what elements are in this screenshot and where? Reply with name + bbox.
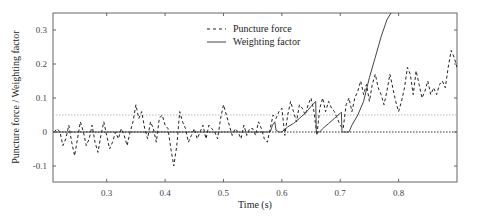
legend: Puncture force Weighting factor xyxy=(207,23,301,47)
y-tick-label: -0.1 xyxy=(33,161,47,171)
y-tick-label: 0.2 xyxy=(36,59,47,69)
y-tick-label: 0.3 xyxy=(36,25,48,35)
x-axis-label: Time (s) xyxy=(238,199,272,211)
chart: 0.30.40.50.60.70.8 -0.100.10.20.3 Time (… xyxy=(0,0,481,223)
y-tick-label: 0 xyxy=(43,127,48,137)
legend-label-puncture-force: Puncture force xyxy=(233,23,292,34)
x-tick-label: 0.3 xyxy=(101,188,113,198)
x-tick-label: 0.7 xyxy=(335,188,347,198)
x-tick-label: 0.6 xyxy=(276,188,288,198)
series-puncture-force xyxy=(54,50,457,166)
y-tick-label: 0.1 xyxy=(36,93,47,103)
y-axis-label: Puncture force / Weighting factor xyxy=(10,30,21,164)
x-tick-label: 0.8 xyxy=(393,188,405,198)
x-tick-label: 0.4 xyxy=(159,188,171,198)
legend-label-weighting-factor: Weighting factor xyxy=(233,36,301,47)
reference-lines xyxy=(53,115,457,132)
x-tick-label: 0.5 xyxy=(218,188,230,198)
series-weighting-factor xyxy=(53,13,391,132)
